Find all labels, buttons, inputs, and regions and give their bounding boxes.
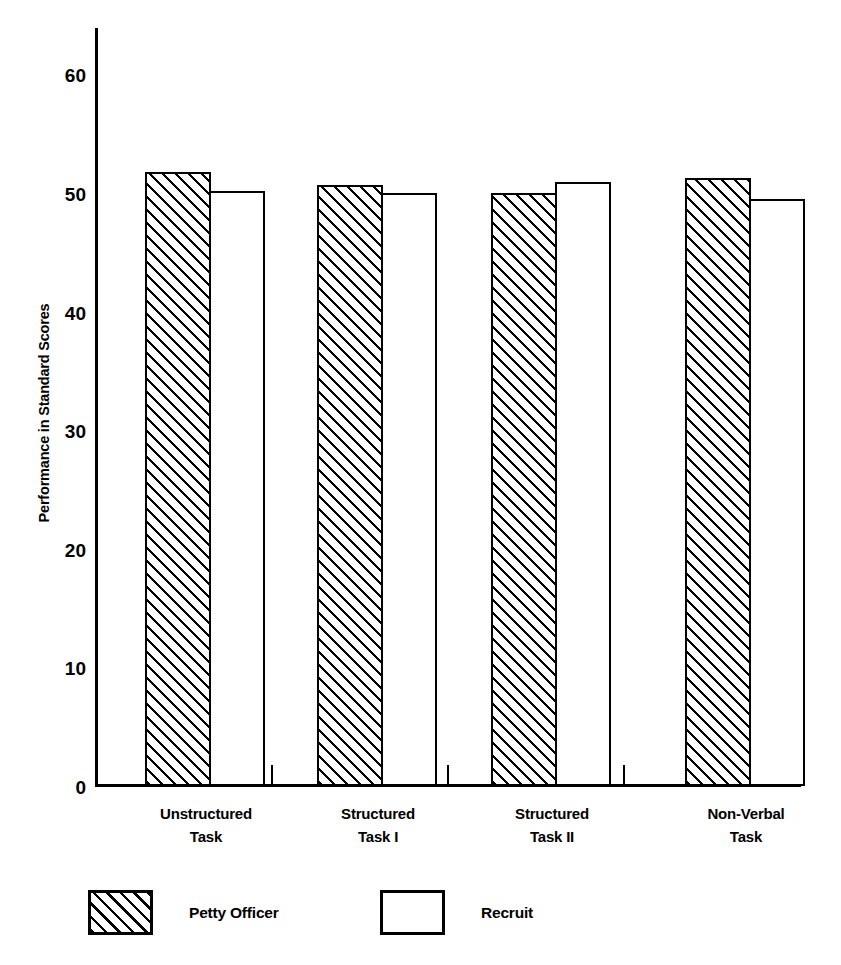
y-tick-label: 0 (46, 778, 86, 797)
legend-swatch-outline-icon (380, 890, 445, 935)
chart-legend: Petty Officer Recruit (0, 890, 841, 960)
x-axis-tick (447, 765, 449, 787)
category-label-line1: Unstructured (106, 802, 306, 825)
x-axis-category-label: Non-VerbalTask (646, 802, 841, 849)
bar-petty-officer (685, 178, 751, 786)
legend-label-petty-officer: Petty Officer (189, 904, 279, 922)
y-tick-label: 50 (46, 185, 86, 204)
legend-item-recruit: Recruit (380, 890, 533, 935)
bar-petty-officer (317, 185, 383, 786)
category-label-line1: Structured (278, 802, 478, 825)
x-axis-tick (271, 765, 273, 787)
category-label-line1: Structured (452, 802, 652, 825)
bar-chart: Performance in Standard Scores 010203040… (0, 0, 841, 965)
x-axis-category-label: StructuredTask I (278, 802, 478, 849)
bar-recruit (555, 182, 611, 786)
bar-recruit (749, 199, 805, 786)
category-label-line2: Task II (452, 825, 652, 848)
category-label-line2: Task I (278, 825, 478, 848)
legend-item-petty-officer: Petty Officer (88, 890, 279, 935)
y-tick-label: 10 (46, 659, 86, 678)
y-axis-line (95, 28, 98, 787)
category-label-line2: Task (646, 825, 841, 848)
category-label-line1: Non-Verbal (646, 802, 841, 825)
x-axis-category-label: UnstructuredTask (106, 802, 306, 849)
bar-recruit (381, 193, 437, 786)
plot-area (95, 28, 801, 787)
y-axis-tick-labels: 0102030405060 (20, 0, 86, 965)
bar-petty-officer (145, 172, 211, 786)
legend-label-recruit: Recruit (481, 904, 533, 922)
legend-swatch-hatched-icon (88, 890, 153, 935)
x-axis-tick (623, 765, 625, 787)
bar-recruit (209, 191, 265, 786)
y-tick-label: 20 (46, 540, 86, 559)
y-tick-label: 60 (46, 66, 86, 85)
bar-petty-officer (491, 193, 557, 786)
y-tick-label: 40 (46, 303, 86, 322)
category-label-line2: Task (106, 825, 306, 848)
y-tick-label: 30 (46, 422, 86, 441)
x-axis-category-label: StructuredTask II (452, 802, 652, 849)
